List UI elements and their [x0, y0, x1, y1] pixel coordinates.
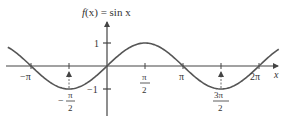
x-tick-label-two-pi: 2π: [250, 71, 260, 82]
y-tick-label-minus-1: −1: [87, 84, 98, 95]
x-tick-label-pi: π: [179, 71, 184, 82]
svg-text:2: 2: [218, 103, 223, 113]
svg-text:3π: 3π: [214, 90, 224, 100]
x-tick-label-three-half-pi: 3π 2: [213, 90, 229, 113]
svg-text:π: π: [68, 90, 73, 100]
svg-text:π: π: [142, 72, 147, 82]
chart-title: f(x) = sin x: [82, 6, 131, 19]
y-tick-label-1: 1: [94, 38, 99, 49]
x-tick-label-neg-half-pi: − π 2: [58, 90, 75, 113]
x-axis-label: x: [273, 69, 279, 80]
sine-chart: f(x) = sin x 1 −1 −π π 2π x − π 2 π 2 3π…: [0, 0, 296, 122]
svg-text:2: 2: [68, 103, 73, 113]
x-tick-label-neg-pi: −π: [20, 71, 31, 82]
svg-text:2: 2: [142, 85, 147, 95]
x-tick-label-half-pi: π 2: [140, 72, 150, 95]
svg-text:−: −: [58, 95, 64, 106]
